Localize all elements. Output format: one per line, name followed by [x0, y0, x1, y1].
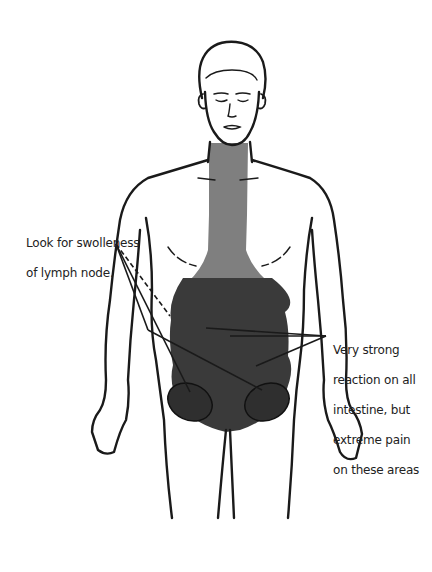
- right-eyebrow: [236, 93, 250, 94]
- face-features: [214, 93, 250, 129]
- lymph-node-annotation: Look for swolleness of lymph node.: [26, 221, 146, 296]
- left-eyebrow: [214, 93, 228, 94]
- mouth: [224, 126, 240, 130]
- inner-right-leg: [230, 430, 234, 518]
- lymph-line-1: Look for swolleness: [26, 236, 146, 251]
- face-outline: [205, 92, 259, 145]
- neck-chest-zone: [188, 143, 268, 282]
- torso-right-side: [288, 218, 312, 518]
- inner-left-leg: [218, 430, 226, 518]
- right-eye: [238, 100, 248, 102]
- torso-left-side: [146, 218, 172, 518]
- intestine-line-3: intestine, but: [333, 403, 432, 418]
- intestine-line-5: on these areas: [333, 463, 432, 478]
- left-eye: [216, 100, 227, 102]
- lymph-line-2: of lymph node.: [26, 266, 146, 281]
- intestine-line-1: Very strong: [333, 343, 432, 358]
- intestine-line-2: reaction on all: [333, 373, 432, 388]
- body-diagram: Look for swolleness of lymph node. Very …: [0, 0, 432, 572]
- nose: [228, 104, 236, 117]
- intestine-annotation: Very strong reaction on all intestine, b…: [333, 328, 432, 493]
- intestine-line-4: extreme pain: [333, 433, 432, 448]
